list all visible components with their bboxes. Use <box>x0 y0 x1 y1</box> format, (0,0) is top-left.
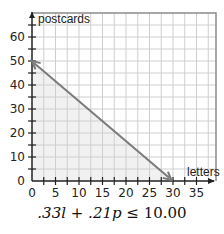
x-tick-label: 35 <box>189 186 204 200</box>
y-tick-label: 10 <box>10 150 25 164</box>
y-axis-title: postcards <box>38 12 90 26</box>
x-tick-label: 25 <box>142 186 157 200</box>
y-tick-label: 30 <box>10 102 25 116</box>
x-tick-label: 30 <box>165 186 180 200</box>
x-tick-label: 5 <box>52 186 60 200</box>
x-tick-label: 10 <box>71 186 86 200</box>
x-tick-label: 15 <box>95 186 110 200</box>
y-tick-label: 0 <box>17 174 25 188</box>
chart: 051015202530350102030405060 postcards le… <box>0 0 224 200</box>
caption-var-p: p <box>112 204 122 222</box>
x-tick-label: 0 <box>28 186 36 200</box>
caption-coef1: .33 <box>37 204 61 222</box>
caption-coef2: + .21 <box>66 204 112 222</box>
x-axis-title: letters <box>187 165 220 179</box>
inequality-caption: .33l + .21p ≤ 10.00 <box>0 204 224 222</box>
y-tick-label: 60 <box>10 30 25 44</box>
x-tick-label: 20 <box>118 186 133 200</box>
y-tick-label: 20 <box>10 126 25 140</box>
y-tick-label: 50 <box>10 54 25 68</box>
y-tick-label: 40 <box>10 78 25 92</box>
caption-rhs: ≤ 10.00 <box>122 204 187 222</box>
